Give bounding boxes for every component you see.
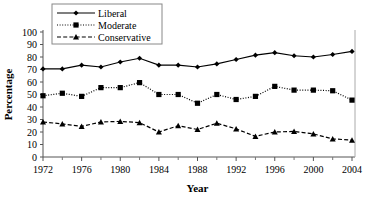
- data-point: [60, 91, 65, 96]
- data-point: [214, 92, 219, 97]
- data-point: [330, 52, 335, 57]
- data-point: [98, 64, 103, 69]
- y-tick-label: 80: [27, 52, 37, 63]
- y-tick-label: 10: [27, 139, 37, 150]
- data-point: [156, 92, 161, 97]
- series-line: [43, 83, 352, 104]
- legend-label-moderate: Moderate: [98, 20, 137, 31]
- data-point: [291, 88, 296, 93]
- data-point: [118, 85, 123, 90]
- data-point: [79, 94, 84, 99]
- y-tick-label: 50: [27, 89, 37, 100]
- x-axis-title: Year: [187, 182, 209, 194]
- y-tick-label: 90: [27, 39, 37, 50]
- data-point: [272, 50, 277, 55]
- data-point: [79, 63, 84, 68]
- y-tick-label: 60: [27, 77, 37, 88]
- y-tick-label: 100: [22, 27, 37, 38]
- data-point: [311, 54, 316, 59]
- data-point: [60, 66, 65, 71]
- data-point: [156, 63, 161, 68]
- data-point: [176, 92, 181, 97]
- x-tick-label: 1988: [188, 164, 208, 175]
- data-point: [349, 98, 354, 103]
- data-point: [175, 123, 181, 129]
- data-point: [137, 80, 142, 85]
- x-tick-label: 1984: [149, 164, 169, 175]
- x-tick-label: 1976: [72, 164, 92, 175]
- x-tick-label: 1992: [226, 164, 246, 175]
- y-tick-label: 20: [27, 127, 37, 138]
- line-chart: 0102030405060708090100197219761980198419…: [0, 0, 368, 198]
- x-tick-label: 2004: [342, 164, 362, 175]
- data-point: [40, 66, 45, 71]
- data-point: [330, 88, 335, 93]
- data-point: [195, 64, 200, 69]
- legend-label-liberal: Liberal: [98, 8, 127, 19]
- y-tick-label: 30: [27, 114, 37, 125]
- data-point: [118, 59, 123, 64]
- legend-label-conservative: Conservative: [98, 32, 151, 43]
- y-tick-label: 40: [27, 102, 37, 113]
- data-point: [349, 49, 354, 54]
- data-point: [98, 85, 103, 90]
- legend-marker-moderate: [73, 22, 78, 27]
- series-conservative: [40, 118, 355, 142]
- data-point: [234, 97, 239, 102]
- data-point: [98, 119, 104, 125]
- y-tick-label: 0: [32, 152, 37, 163]
- data-point: [349, 137, 355, 143]
- data-point: [176, 63, 181, 68]
- data-point: [214, 120, 220, 126]
- data-point: [234, 57, 239, 62]
- data-point: [253, 53, 258, 58]
- data-point: [291, 53, 296, 58]
- data-point: [272, 84, 277, 89]
- y-axis-title: Percentage: [2, 69, 14, 121]
- data-point: [311, 88, 316, 93]
- data-point: [195, 101, 200, 106]
- x-tick-label: 1980: [110, 164, 130, 175]
- data-point: [233, 126, 239, 132]
- series-liberal: [40, 49, 354, 72]
- x-tick-label: 1996: [265, 164, 285, 175]
- data-point: [40, 93, 45, 98]
- data-point: [137, 56, 142, 61]
- data-point: [214, 61, 219, 66]
- series-moderate: [40, 80, 354, 106]
- chart-container: 0102030405060708090100197219761980198419…: [0, 0, 368, 198]
- x-tick-label: 1972: [33, 164, 53, 175]
- data-point: [253, 94, 258, 99]
- x-tick-label: 2000: [303, 164, 323, 175]
- y-tick-label: 70: [27, 64, 37, 75]
